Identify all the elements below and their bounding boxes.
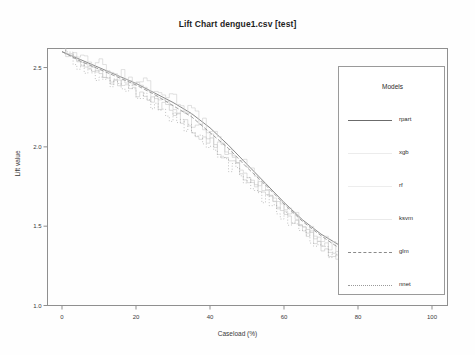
x-tick-label: 40 (207, 314, 214, 320)
legend-label-nnet: nnet (399, 281, 411, 287)
data-series-layer (62, 48, 340, 263)
x-tick-label: 20 (133, 314, 140, 320)
legend-key-rf (348, 186, 392, 188)
series-line-xgb (62, 48, 340, 260)
y-tick-label: 1.0 (22, 303, 42, 309)
legend-box: Models rpartxgbrfksvmglmnnet (338, 66, 445, 295)
legend-label-rpart: rpart (399, 116, 411, 122)
series-line-ksvm (62, 48, 340, 260)
x-tick-label: 60 (281, 314, 288, 320)
legend-entry-rpart: rpart (339, 115, 446, 127)
legend-entry-glm: glm (339, 247, 446, 259)
legend-label-glm: glm (399, 248, 409, 254)
x-tick-label: 0 (60, 314, 63, 320)
legend-entry-ksvm: ksvm (339, 214, 446, 226)
series-line-rpart (62, 52, 340, 246)
legend-entry-xgb: xgb (339, 148, 446, 160)
legend-key-nnet (348, 285, 392, 287)
y-axis-label: Lift value (14, 134, 21, 194)
y-tick-label: 2.5 (22, 65, 42, 71)
series-line-nnet (62, 48, 340, 263)
legend-entry-rf: rf (339, 181, 446, 193)
y-tick-label: 2.0 (22, 144, 42, 150)
x-tick-label: 100 (427, 314, 437, 320)
legend-title: Models (339, 83, 446, 90)
x-axis-label: Caseload (%) (0, 330, 475, 337)
legend-key-rpart (348, 120, 392, 122)
legend-label-ksvm: ksvm (399, 215, 413, 221)
legend-entry-nnet: nnet (339, 280, 446, 292)
x-tick-label: 80 (355, 314, 362, 320)
lift-chart-figure: Lift Chart dengue1.csv [test] 0204060801… (0, 0, 475, 355)
legend-key-xgb (348, 153, 392, 155)
legend-label-rf: rf (399, 182, 403, 188)
series-line-rf (62, 48, 340, 252)
series-line-glm (62, 52, 340, 249)
legend-label-xgb: xgb (399, 149, 409, 155)
y-tick-label: 1.5 (22, 223, 42, 229)
legend-key-glm (348, 252, 392, 254)
legend-key-ksvm (348, 219, 392, 221)
